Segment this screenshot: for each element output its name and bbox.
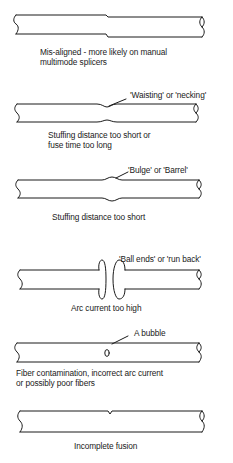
annotation-ball-ends: 'Ball ends' or 'run back' xyxy=(119,254,201,264)
caption-bubble-line2: or possibly poor fibers xyxy=(16,378,95,388)
fiber-ball-ends xyxy=(18,260,202,299)
fiber-diagrams xyxy=(0,0,233,463)
bubble-icon xyxy=(105,350,109,357)
fiber-misaligned xyxy=(14,15,205,37)
fiber-bulge xyxy=(16,172,202,201)
caption-bulge-line1: Stuffing distance too short xyxy=(52,212,145,222)
caption-waisting-line1: Stuffing distance too short or xyxy=(48,130,150,140)
annotation-waisting: 'Waisting' or 'necking' xyxy=(130,90,206,100)
waisting-leader-line xyxy=(109,99,126,106)
bulge-leader-line xyxy=(116,172,128,178)
caption-waisting-line2: fuse time too long xyxy=(48,140,112,150)
fiber-bubble xyxy=(15,336,202,362)
fiber-incomplete-fusion xyxy=(18,411,205,432)
annotation-bubble: A bubble xyxy=(134,328,166,338)
annotation-bulge: 'Bulge' or 'Barrel' xyxy=(128,165,188,175)
caption-misaligned-line1: Mis-aligned - more likely on manual xyxy=(40,47,167,57)
caption-incomplete-fusion: Incomplete fusion xyxy=(74,441,137,451)
fiber-waisting xyxy=(15,99,199,122)
caption-ball-ends-line1: Arc current too high xyxy=(71,303,141,313)
caption-misaligned-line2: multimode splicers xyxy=(40,57,107,67)
caption-bubble-line1: Fiber contamination, incorrect arc curre… xyxy=(16,368,163,378)
